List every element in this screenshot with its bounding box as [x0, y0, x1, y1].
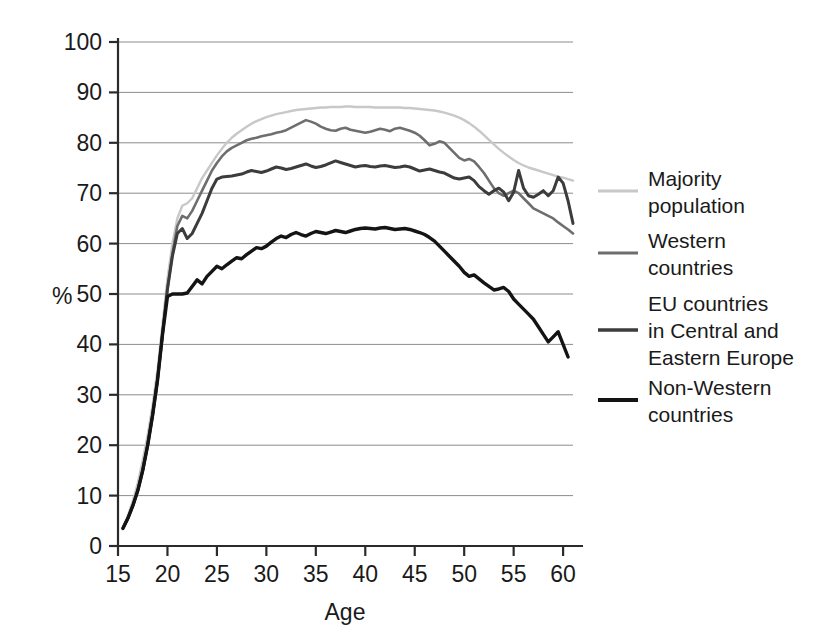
y-tick-label-80: 80 [76, 130, 102, 156]
chart-figure: 0102030405060708090100 15202530354045505… [0, 0, 813, 642]
y-tick-label-0: 0 [89, 533, 102, 559]
x-tick-label-35: 35 [303, 561, 329, 587]
x-tick-label-15: 15 [105, 561, 131, 587]
x-tick-label-25: 25 [204, 561, 230, 587]
x-tick-label-50: 50 [451, 561, 477, 587]
y-tick-label-10: 10 [76, 483, 102, 509]
legend-label-2-line-1: in Central and [648, 319, 779, 342]
legend-label-2-line-2: Eastern Europe [648, 346, 794, 369]
x-tick-label-30: 30 [254, 561, 280, 587]
legend-label-1-line-1: countries [648, 256, 733, 279]
y-tick-label-100: 100 [64, 29, 102, 55]
x-tick-label-55: 55 [501, 561, 527, 587]
line-chart: 0102030405060708090100 15202530354045505… [0, 0, 813, 642]
x-axis-title: Age [325, 599, 366, 625]
legend-label-0-line-0: Majority [648, 167, 722, 190]
x-tick-label-20: 20 [155, 561, 181, 587]
legend-label-3-line-1: countries [648, 403, 733, 426]
legend-label-0-line-1: population [648, 194, 745, 217]
y-tick-label-60: 60 [76, 231, 102, 257]
legend-label-2-line-0: EU countries [648, 292, 768, 315]
y-tick-label-70: 70 [76, 180, 102, 206]
legend-label-3-line-0: Non-Western [648, 376, 771, 399]
y-axis-title: % [52, 283, 72, 309]
y-tick-label-90: 90 [76, 79, 102, 105]
y-tick-label-30: 30 [76, 382, 102, 408]
x-tick-label-45: 45 [402, 561, 428, 587]
x-tick-label-60: 60 [550, 561, 576, 587]
y-tick-label-20: 20 [76, 432, 102, 458]
y-tick-label-40: 40 [76, 331, 102, 357]
legend-label-1-line-0: Western [648, 229, 726, 252]
x-tick-label-40: 40 [352, 561, 378, 587]
y-tick-label-50: 50 [76, 281, 102, 307]
